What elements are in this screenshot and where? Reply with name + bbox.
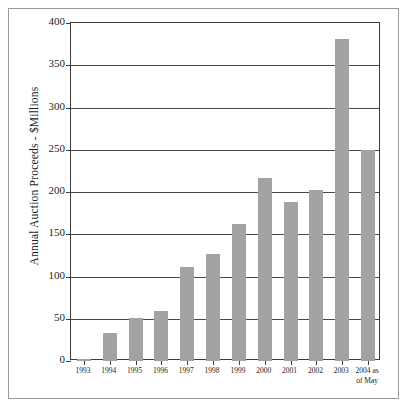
y-axis-tick-label: 250 (35, 143, 65, 154)
y-axis-tick-label: 300 (35, 101, 65, 112)
x-axis-tick-label: 2004 asof May (346, 366, 388, 385)
y-axis-tick-label: 350 (35, 58, 65, 69)
y-axis-tick-label: 100 (35, 270, 65, 281)
y-axis-tick-label: 50 (35, 312, 65, 323)
chart-figure: Annual Auction Proceeds - $Millions 0501… (0, 0, 410, 410)
y-axis-tick-label: 0 (35, 354, 65, 365)
x-axis-tick-labels: 1993199419951996199719981999200020012002… (70, 0, 410, 410)
y-axis-tick-label: 400 (35, 16, 65, 27)
y-axis-tick-label: 150 (35, 227, 65, 238)
y-axis-tick-label: 200 (35, 185, 65, 196)
y-axis-tick-labels: 050100150200250300350400 (30, 0, 65, 410)
